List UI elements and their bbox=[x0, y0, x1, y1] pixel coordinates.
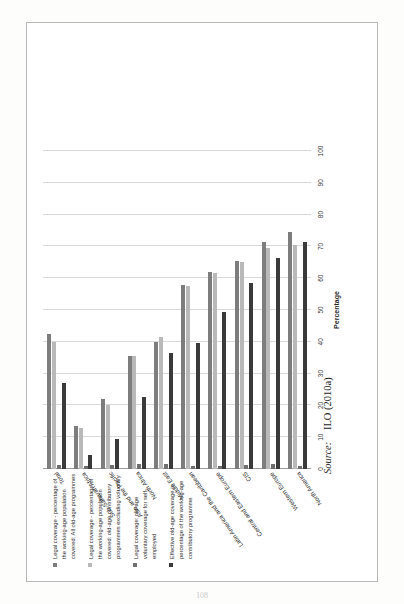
bar-group bbox=[43, 151, 70, 469]
bar bbox=[218, 466, 222, 469]
chart-legend: Legal coverage - percentage of the worki… bbox=[51, 473, 204, 567]
bar bbox=[47, 334, 51, 469]
document-page: Legal coverage - percentage of the worki… bbox=[0, 0, 404, 604]
bar bbox=[191, 466, 195, 469]
bar bbox=[106, 405, 110, 469]
bar-group bbox=[97, 151, 124, 469]
legend-swatch-icon bbox=[133, 563, 137, 567]
bar bbox=[115, 439, 119, 469]
bar bbox=[110, 465, 114, 469]
x-tick-label: 100 bbox=[317, 146, 324, 157]
legend-swatch-icon bbox=[169, 563, 173, 567]
legend-swatch-icon bbox=[53, 563, 57, 567]
bar-group bbox=[123, 151, 150, 469]
bar bbox=[84, 466, 88, 469]
x-tick-label: 80 bbox=[317, 211, 324, 218]
category-label: CIS bbox=[241, 471, 253, 483]
bar bbox=[159, 337, 163, 469]
bar bbox=[181, 285, 185, 469]
bar bbox=[271, 464, 275, 469]
page-number: 108 bbox=[0, 591, 404, 600]
bar bbox=[303, 242, 307, 469]
legend-item-label: Legal coverage - percentage of the worki… bbox=[52, 474, 76, 559]
bar bbox=[262, 242, 266, 469]
legend-item-all-old-age-programmes: Legal coverage - percentage of the worki… bbox=[51, 473, 78, 567]
bar bbox=[128, 356, 132, 469]
source-value: ILO (2010a) bbox=[322, 377, 333, 430]
x-tick-label: 90 bbox=[317, 179, 324, 186]
bar bbox=[62, 383, 66, 469]
bar bbox=[208, 272, 212, 469]
source-label: Source: bbox=[322, 442, 333, 474]
bar bbox=[276, 258, 280, 469]
figure-rotated-container: Legal coverage - percentage of the worki… bbox=[26, 22, 378, 582]
bar bbox=[57, 465, 61, 469]
bar bbox=[288, 232, 292, 469]
bar bbox=[74, 426, 78, 469]
x-tick-label: 70 bbox=[317, 243, 324, 250]
bar bbox=[222, 312, 226, 469]
bar bbox=[240, 262, 244, 469]
bar-group bbox=[257, 151, 284, 469]
bar bbox=[196, 343, 200, 469]
x-tick-label: 60 bbox=[317, 275, 324, 282]
bar-group bbox=[150, 151, 177, 469]
bar bbox=[244, 465, 248, 469]
bar bbox=[266, 248, 270, 469]
category-label: North America bbox=[294, 471, 322, 507]
bar bbox=[298, 466, 302, 469]
bar bbox=[186, 286, 190, 469]
bar bbox=[88, 455, 92, 469]
bar-group bbox=[204, 151, 231, 469]
chart-frame: Legal coverage - percentage of the worki… bbox=[26, 22, 378, 582]
bar-group bbox=[231, 151, 258, 469]
source-line: Source: ILO (2010a) bbox=[322, 304, 333, 474]
plot-area: 0102030405060708090100North AmericaWeste… bbox=[43, 151, 311, 469]
bar bbox=[169, 353, 173, 469]
legend-swatch-icon bbox=[88, 563, 92, 567]
bar bbox=[293, 245, 297, 469]
x-axis-title: Percentage bbox=[333, 151, 340, 469]
bar-group bbox=[284, 151, 311, 469]
bar bbox=[235, 261, 239, 469]
bar bbox=[164, 464, 168, 469]
bar bbox=[79, 428, 83, 469]
bar bbox=[101, 399, 105, 469]
bar bbox=[213, 273, 217, 469]
bar bbox=[52, 342, 56, 469]
bar bbox=[132, 356, 136, 469]
bar bbox=[142, 397, 146, 469]
bar bbox=[154, 342, 158, 469]
bar bbox=[137, 464, 141, 469]
bar-group bbox=[70, 151, 97, 469]
bar bbox=[249, 283, 253, 469]
bar-group bbox=[177, 151, 204, 469]
category-label: Central and Eastern Europe bbox=[214, 471, 264, 538]
category-label: Western Europe bbox=[267, 471, 298, 512]
